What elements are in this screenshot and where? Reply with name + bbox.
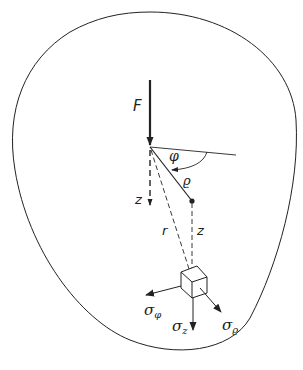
force-label: F	[133, 97, 142, 115]
r-label: r	[162, 223, 169, 238]
z-depth-label: z	[196, 223, 205, 238]
sigma-rho-arrow	[200, 288, 221, 312]
sigma-z-label: σz	[172, 317, 188, 336]
sigma-phi-arrow	[146, 286, 181, 295]
boussinesq-diagram: F φ ϱ z r z σφ σz σϱ	[0, 0, 303, 370]
rho-label: ϱ	[183, 173, 191, 188]
reference-line	[150, 147, 236, 155]
volume-element-cube	[181, 266, 207, 298]
body-outline	[12, 12, 296, 350]
load-point-dot	[189, 198, 194, 203]
z-axis-label: z	[134, 192, 143, 207]
phi-label: φ	[169, 148, 179, 164]
sigma-rho-label: σϱ	[222, 316, 238, 335]
sigma-phi-label: σφ	[144, 301, 161, 320]
